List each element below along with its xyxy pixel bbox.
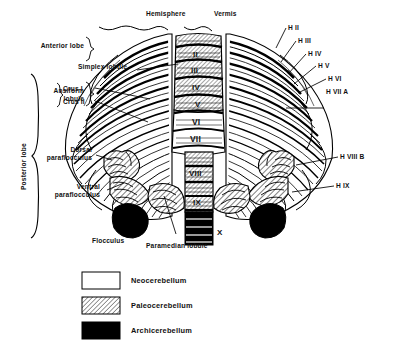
top-bracket-vermis [184, 27, 212, 31]
label-h9: H IX [336, 182, 350, 190]
vermis-label-iv: IV [192, 84, 200, 92]
legend-label-paleocerebellum: Paleocerebellum [131, 301, 193, 310]
label-ventral-paraflocculus: Ventral paraflocculus [48, 183, 100, 200]
label-h4: H IV [308, 50, 322, 58]
left-dorsal-paraflocculus [104, 151, 140, 181]
anterior-lobe-brace [86, 37, 94, 61]
label-h5: H V [318, 62, 330, 70]
legend-label-archicerebellum: Archicerebellum [131, 326, 192, 335]
label-h2: H II [288, 24, 299, 32]
label-crus-ii: Crus II [63, 98, 85, 106]
label-h7a: H VII A [326, 88, 348, 96]
vermis-label-x: X [217, 229, 223, 237]
legend-swatch-archicerebellum [82, 322, 120, 339]
vermis-nodulus [185, 212, 213, 245]
label-dorsal-paraflocculus: Dorsal paraflocculus [40, 146, 92, 163]
vermis-label-viii: VIII [189, 170, 202, 178]
label-hemisphere: Hemisphere [146, 10, 186, 18]
vermis-label-iii: III [191, 67, 198, 75]
legend-swatch-paleocerebellum [82, 297, 120, 314]
label-posterior-lobe: Posterior lobe [20, 143, 28, 190]
vermis-label-vi: VI [192, 118, 200, 126]
legend-swatch-neocerebellum [82, 272, 120, 289]
label-h8b: H VIII B [340, 153, 365, 161]
left-flocculus [112, 203, 148, 238]
vermis-label-ix: IX [193, 199, 201, 207]
label-h6: H VI [328, 75, 342, 83]
top-bracket-hemisphere [99, 26, 168, 30]
label-anterior-lobe: Anterior lobe [32, 42, 84, 50]
right-dorsal-paraflocculus [258, 151, 294, 181]
cerebellum-diagram: Hemisphere Vermis Anterior lobe Ansiform… [0, 0, 397, 347]
label-flocculus: Flocculus [92, 237, 124, 245]
legend-label-neocerebellum: Neocerebellum [131, 276, 187, 285]
vermis-label-ii: II [193, 51, 198, 59]
label-crus-i: Crus I [63, 85, 83, 93]
right-flocculus [250, 203, 286, 238]
label-h3: H III [298, 37, 311, 45]
label-simplex-lobule: Simplex lobule [78, 63, 127, 71]
label-vermis: Vermis [214, 10, 237, 18]
label-paramedian-lobule: Paramedian lobule [146, 242, 208, 250]
vermis-label-v: V [195, 101, 201, 109]
vermis-label-vii: VII [190, 135, 201, 143]
